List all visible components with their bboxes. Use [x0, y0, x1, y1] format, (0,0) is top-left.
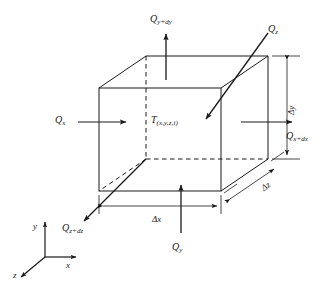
cube-top-face-edges: [99, 56, 268, 88]
diagram-canvas: Qy+dy Qz Qx Qx+dx Qy Qz+dz T(x,y,z,t) Δy…: [0, 0, 324, 290]
heat-flux-arrow-qz-out: [84, 159, 146, 221]
axis-label-y: y: [33, 222, 37, 231]
label-heat-flux-qz-out: Qz+dz: [62, 218, 83, 235]
heat-flux-arrow-qz-in: [206, 33, 268, 119]
label-dimension-dx: Δx: [152, 209, 161, 225]
label-heat-flux-qx-in: Qx: [55, 110, 65, 127]
axis-label-x: x: [66, 261, 70, 270]
label-heat-flux-qy-in: Qy: [172, 237, 182, 254]
label-heat-flux-qy-out: Qy+dy: [150, 9, 172, 26]
cube-hidden-edges: [99, 56, 268, 191]
label-heat-flux-qz-in: Qz: [268, 19, 278, 36]
label-temperature-function: T(x,y,z,t): [151, 110, 178, 127]
diagram-vector-layer: [0, 0, 324, 290]
cube-front-face: [99, 88, 221, 191]
axis-label-z: z: [13, 271, 17, 280]
cube-right-face-edges: [221, 56, 268, 191]
label-dimension-dy: Δy: [281, 106, 297, 115]
label-heat-flux-qx-out: Qx+dx: [286, 126, 308, 143]
